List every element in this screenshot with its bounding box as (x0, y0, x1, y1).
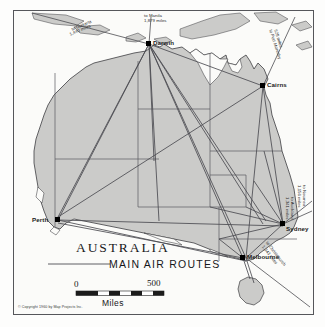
route-note-noumea-line1: to Noumea (301, 185, 306, 206)
scale-unit-label: Miles (102, 298, 124, 308)
map-frame: Darwin Cairns Perth Sydney Melbourne to … (13, 10, 314, 315)
route-note-manila-line2: 1,879 miles (144, 19, 167, 24)
scale-start-label: 0 (74, 279, 79, 289)
route-note-auckland-line1: to Auckland (289, 197, 294, 220)
city-dot-darwin (146, 41, 151, 46)
copyright-notice: © Copyright 1960 by Map Projects Inc. (18, 305, 83, 309)
city-dot-sydney (280, 221, 285, 226)
map-subtitle: MAIN AIR ROUTES (109, 258, 221, 270)
city-dot-melbourne (240, 255, 245, 260)
city-dot-perth (55, 217, 60, 222)
city-label-perth: Perth (32, 217, 48, 224)
city-dot-cairns (260, 83, 265, 88)
australia-air-routes-map: Darwin Cairns Perth Sydney Melbourne to … (0, 0, 325, 327)
scale-bar (76, 291, 164, 296)
city-label-cairns: Cairns (267, 82, 287, 89)
route-note-auckland-line2: 1,341 miles (284, 197, 289, 220)
scale-end-label: 500 (147, 278, 161, 288)
city-label-sydney: Sydney (286, 226, 309, 233)
route-note-noumea-line2: 1,156 miles (296, 185, 301, 208)
city-label-darwin: Darwin (153, 40, 174, 47)
map-title: AUSTRALIA (76, 240, 170, 256)
